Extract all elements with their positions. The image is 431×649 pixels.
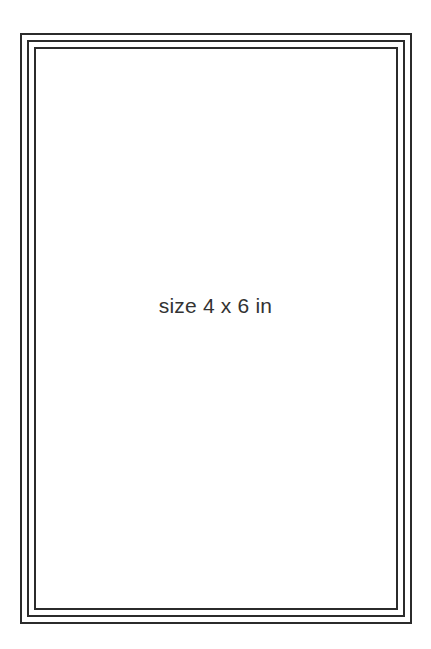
inner-border-frame bbox=[34, 47, 398, 610]
size-label: size 4 x 6 in bbox=[0, 294, 431, 318]
